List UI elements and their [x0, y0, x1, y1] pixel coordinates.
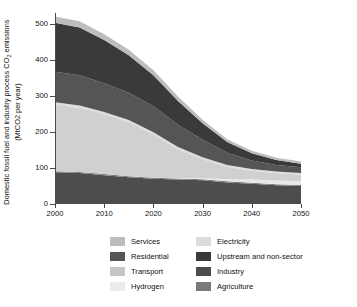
x-tick-label: 2020: [136, 209, 170, 218]
y-tick-mark: [50, 24, 55, 25]
legend-item-electricity[interactable]: Electricity: [196, 237, 320, 246]
legend-label: Transport: [131, 267, 163, 276]
legend-item-transport[interactable]: Transport: [110, 267, 196, 276]
legend-swatch: [196, 282, 211, 291]
y-tick-label: 400: [24, 55, 48, 64]
x-tick-label: 2010: [87, 209, 121, 218]
legend-swatch: [196, 267, 211, 276]
legend-label: Industry: [217, 267, 244, 276]
y-axis-title: Domestic fossil fuel and industry proces…: [0, 0, 26, 225]
y-axis-title-subscript: 2: [6, 55, 12, 58]
legend-label: Electricity: [217, 237, 250, 246]
chart-figure: Domestic fossil fuel and industry proces…: [0, 0, 357, 307]
x-tick-label: 2040: [235, 209, 269, 218]
legend-item-agriculture[interactable]: Agriculture: [196, 282, 320, 291]
chart-legend: ServicesElectricityResidentialUpstream a…: [110, 234, 320, 294]
y-tick-mark: [50, 60, 55, 61]
x-tick-mark: [252, 204, 253, 208]
y-tick-label: 0: [24, 199, 48, 208]
stacked-area-svg: [55, 13, 301, 204]
x-tick-mark: [301, 204, 302, 208]
y-axis-line: [55, 13, 56, 204]
legend-swatch: [110, 252, 125, 261]
y-axis-title-line2: (MtCO2 per year): [14, 20, 24, 205]
y-axis-title-line1-tail: emissions: [3, 20, 12, 55]
legend-swatch: [110, 267, 125, 276]
legend-swatch: [110, 237, 125, 246]
x-tick-mark: [153, 204, 154, 208]
x-tick-mark: [55, 204, 56, 208]
legend-item-residential[interactable]: Residential: [110, 252, 196, 261]
legend-item-hydrogen[interactable]: Hydrogen: [110, 282, 196, 291]
y-tick-label: 500: [24, 19, 48, 28]
legend-item-upstream-and-non-sector[interactable]: Upstream and non-sector: [196, 252, 320, 261]
y-tick-mark: [50, 96, 55, 97]
legend-label: Agriculture: [217, 282, 253, 291]
legend-label: Residential: [131, 252, 169, 261]
legend-label: Services: [131, 237, 160, 246]
y-tick-mark: [50, 132, 55, 133]
y-tick-label: 300: [24, 91, 48, 100]
legend-item-industry[interactable]: Industry: [196, 267, 320, 276]
x-tick-label: 2050: [284, 209, 318, 218]
x-tick-mark: [203, 204, 204, 208]
plot-area: [55, 13, 301, 204]
y-axis-title-line1: Domestic fossil fuel and industry proces…: [3, 58, 12, 205]
y-tick-label: 200: [24, 127, 48, 136]
legend-label: Upstream and non-sector: [217, 252, 303, 261]
legend-swatch: [196, 252, 211, 261]
y-tick-label: 100: [24, 163, 48, 172]
legend-label: Hydrogen: [131, 282, 164, 291]
x-axis-line: [55, 203, 301, 204]
x-tick-label: 2030: [186, 209, 220, 218]
legend-swatch: [196, 237, 211, 246]
legend-swatch: [110, 282, 125, 291]
x-tick-label: 2000: [38, 209, 72, 218]
y-tick-mark: [50, 168, 55, 169]
legend-item-services[interactable]: Services: [110, 237, 196, 246]
x-tick-mark: [104, 204, 105, 208]
